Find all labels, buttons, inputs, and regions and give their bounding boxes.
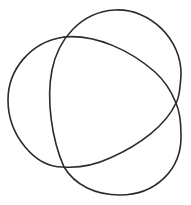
trefoil-knot-figure — [0, 0, 191, 205]
knot-strand-upper-lobe — [50, 10, 181, 167]
knot-diagram — [0, 0, 191, 205]
knot-strand-left-lobe — [64, 37, 176, 103]
knot-strand-lower-lobe — [64, 103, 181, 195]
